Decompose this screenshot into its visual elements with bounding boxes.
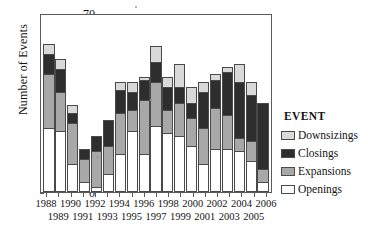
bar-column[interactable] [138,15,150,192]
bar-column[interactable] [55,15,67,192]
bar-column[interactable] [245,15,257,192]
bar-segment-closings[interactable] [174,87,185,102]
bar-segment-expansions[interactable] [79,159,90,182]
bar-segment-expansions[interactable] [257,169,268,182]
bar-segment-downsizings[interactable] [127,82,138,92]
bar-segment-expansions[interactable] [198,128,209,164]
legend-item[interactable]: Downsizings [281,129,367,141]
x-tick-mark [205,193,206,197]
bar-segment-closings[interactable] [79,149,90,159]
bar-segment-closings[interactable] [222,72,233,115]
x-tick-mark [107,193,108,197]
bar-segment-closings[interactable] [257,103,268,169]
bar-column[interactable] [150,15,162,192]
legend-item[interactable]: Expansions [281,165,367,177]
bar-segment-expansions[interactable] [127,110,138,130]
bar-column[interactable] [233,15,245,192]
bar-segment-openings[interactable] [103,174,114,192]
bar-segment-expansions[interactable] [210,108,221,149]
bar-segment-closings[interactable] [234,82,245,138]
x-tick-mark [58,193,59,197]
bar-segment-openings[interactable] [257,182,268,192]
bar-segment-closings[interactable] [139,80,150,100]
bar-segment-closings[interactable] [115,90,126,113]
bar-segment-openings[interactable] [222,149,233,192]
bar-segment-openings[interactable] [115,154,126,192]
bar-column[interactable] [221,15,233,192]
bar-column[interactable] [198,15,210,192]
bar-segment-closings[interactable] [186,103,197,118]
bar-column[interactable] [209,15,221,192]
bar-segment-closings[interactable] [162,87,173,110]
bar-segment-downsizings[interactable] [198,82,209,92]
bar-segment-expansions[interactable] [150,82,161,125]
bar-segment-expansions[interactable] [234,138,245,151]
bar-segment-openings[interactable] [67,164,78,192]
bar-column[interactable] [102,15,114,192]
bar-segment-expansions[interactable] [174,103,185,136]
bar-column[interactable] [79,15,91,192]
bar-segment-expansions[interactable] [67,123,78,164]
bar-segment-downsizings[interactable] [234,64,245,82]
legend-label: Openings [298,183,342,195]
bar-segment-downsizings[interactable] [186,87,197,102]
bar-segment-closings[interactable] [55,69,66,92]
bar-segment-openings[interactable] [198,164,209,192]
bar-column[interactable] [67,15,79,192]
bar-segment-openings[interactable] [139,154,150,192]
bar-segment-downsizings[interactable] [162,77,173,87]
bar-segment-downsizings[interactable] [246,82,257,95]
bar-segment-openings[interactable] [43,128,54,192]
bar-segment-openings[interactable] [234,151,245,192]
bar-segment-closings[interactable] [103,120,114,146]
bar-column[interactable] [174,15,186,192]
bar-segment-expansions[interactable] [222,115,233,148]
bar-segment-expansions[interactable] [186,118,197,146]
bar-segment-openings[interactable] [79,182,90,192]
plot-area [40,14,272,193]
bar-column[interactable] [126,15,138,192]
bar-segment-closings[interactable] [210,80,221,108]
bar-segment-downsizings[interactable] [43,44,54,54]
bar-column[interactable] [91,15,103,192]
bar-segment-expansions[interactable] [246,141,257,161]
legend-item[interactable]: Closings [281,147,367,159]
bar-segment-downsizings[interactable] [67,105,78,113]
bar-segment-closings[interactable] [43,54,54,74]
bar-segment-closings[interactable] [67,113,78,123]
bar-segment-closings[interactable] [150,62,161,82]
bar-column[interactable] [162,15,174,192]
bar-segment-expansions[interactable] [115,113,126,154]
bar-segment-downsizings[interactable] [174,64,185,87]
bar-segment-downsizings[interactable] [115,82,126,90]
bar-segment-openings[interactable] [127,131,138,192]
bar-segment-expansions[interactable] [139,100,150,154]
bar-segment-openings[interactable] [174,136,185,192]
bar-segment-openings[interactable] [150,126,161,192]
bar-segment-expansions[interactable] [55,92,66,130]
bar-segment-openings[interactable] [55,131,66,192]
legend-swatch-icon [281,149,295,158]
bar-column[interactable] [186,15,198,192]
bar-segment-downsizings[interactable] [55,59,66,69]
bar-segment-openings[interactable] [162,133,173,192]
bar-segment-closings[interactable] [198,92,209,128]
bar-segment-openings[interactable] [246,161,257,192]
legend: EVENT DownsizingsClosingsExpansionsOpeni… [281,110,367,201]
bar-segment-openings[interactable] [186,146,197,192]
x-tick-mark [144,193,145,197]
bar-segment-downsizings[interactable] [150,46,161,61]
bar-segment-closings[interactable] [127,92,138,110]
bar-segment-closings[interactable] [91,136,102,151]
x-tick-mark [193,193,194,197]
bar-segment-expansions[interactable] [43,74,54,128]
legend-item[interactable]: Openings [281,183,367,195]
bar-segment-expansions[interactable] [162,110,173,133]
bar-segment-closings[interactable] [246,95,257,141]
bar-column[interactable] [257,15,269,192]
bar-segment-openings[interactable] [91,187,102,192]
bar-column[interactable] [114,15,126,192]
bar-column[interactable] [43,15,55,192]
bar-segment-expansions[interactable] [103,146,114,174]
bar-segment-openings[interactable] [210,149,221,192]
